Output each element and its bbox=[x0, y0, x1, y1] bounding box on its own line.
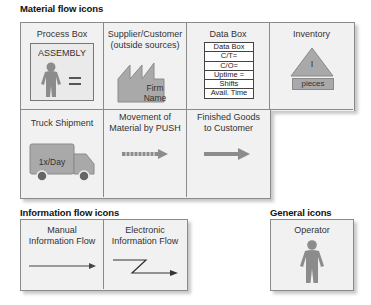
cell-label: Operator bbox=[271, 225, 353, 236]
operator-icon bbox=[299, 240, 325, 284]
shipment-arrow-icon bbox=[204, 148, 254, 160]
cell-truck-shipment: Truck Shipment 1x/Day bbox=[21, 110, 104, 197]
manual-info-arrow-icon bbox=[29, 262, 97, 270]
truck-label: 1x/Day bbox=[30, 157, 74, 167]
cell-label-line1: Supplier/Customer bbox=[104, 29, 186, 40]
material-flow-title: Material flow icons bbox=[20, 3, 103, 14]
cell-label-line2: Information Flow bbox=[104, 236, 186, 247]
cell-label-line1: Finished Goods bbox=[187, 112, 270, 123]
cell-label: Inventory bbox=[270, 29, 353, 40]
cell-label-line2: to Customer bbox=[187, 123, 270, 134]
process-box-label: ASSEMBLY bbox=[31, 48, 93, 58]
inventory-pieces-label: pieces bbox=[292, 78, 334, 90]
cell-data-box: Data Box Data Box C/T= C/O= Uptime = Shi… bbox=[187, 23, 270, 110]
cell-finished-goods: Finished Goods to Customer bbox=[187, 110, 270, 197]
cell-operator: Operator bbox=[271, 220, 353, 289]
cell-label-line2: (outside sources) bbox=[104, 40, 186, 51]
cell-label-line1: Manual bbox=[21, 225, 103, 236]
operator-figure-icon bbox=[39, 62, 87, 98]
data-box-icon: Data Box C/T= C/O= Uptime = Shifts Avail… bbox=[204, 42, 254, 99]
cell-process-box: Process Box ASSEMBLY bbox=[21, 23, 104, 110]
factory-label-line1: Firm bbox=[140, 83, 170, 93]
general-icons-title: General icons bbox=[270, 207, 332, 218]
information-flow-title: Information flow icons bbox=[20, 207, 119, 218]
data-box-row: Avail. Time bbox=[205, 89, 253, 97]
factory-label-line2: Name bbox=[140, 93, 170, 103]
cell-inventory: Inventory I pieces bbox=[270, 23, 353, 110]
cell-electronic-info-flow: Electronic Information Flow bbox=[104, 220, 186, 289]
cell-label: Process Box bbox=[21, 29, 103, 40]
push-arrow-icon bbox=[122, 148, 172, 160]
cell-label-line2: Information Flow bbox=[21, 236, 103, 247]
cell-manual-info-flow: Manual Information Flow bbox=[21, 220, 104, 289]
cell-label-line1: Electronic bbox=[104, 225, 186, 236]
cell-label-line1: Movement of bbox=[104, 112, 186, 123]
cell-label: Truck Shipment bbox=[21, 118, 103, 129]
cell-label: Data Box bbox=[187, 29, 269, 40]
cell-supplier-customer: Supplier/Customer (outside sources) Firm… bbox=[104, 23, 187, 110]
electronic-info-arrow-icon bbox=[112, 257, 180, 277]
cell-push-movement: Movement of Material by PUSH bbox=[104, 110, 187, 197]
cell-label-line2: Material by PUSH bbox=[104, 123, 186, 134]
inventory-label: I bbox=[290, 59, 334, 69]
process-box-icon: ASSEMBLY bbox=[30, 43, 94, 101]
